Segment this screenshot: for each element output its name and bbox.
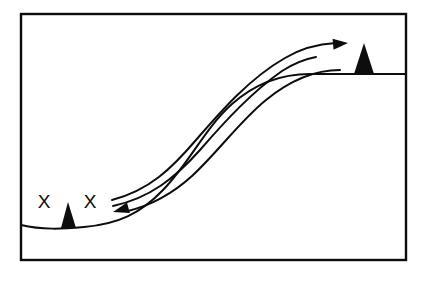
x-mark-right: X	[84, 191, 97, 212]
figure-root: X X	[0, 0, 426, 281]
x-mark-left: X	[38, 191, 51, 212]
terrain-diagram: X X	[0, 0, 426, 281]
figure-background	[0, 0, 426, 281]
